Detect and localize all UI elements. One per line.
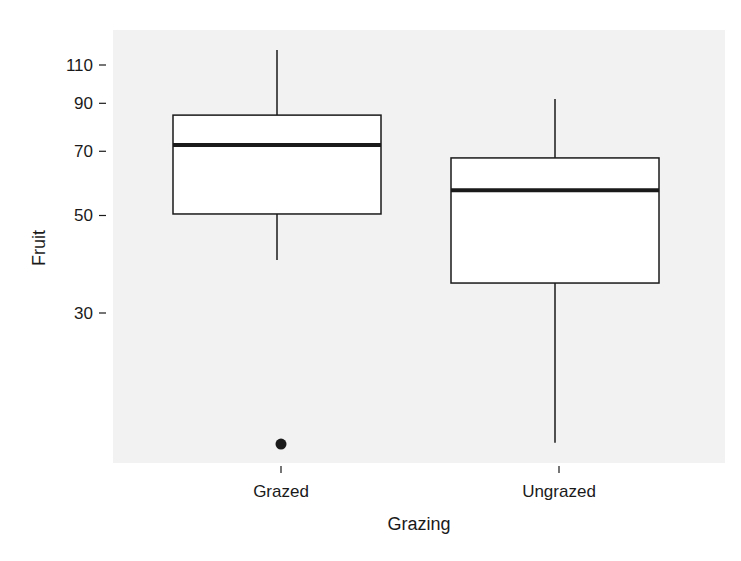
iqr-box [173,115,381,214]
y-tick-label: 110 [66,56,93,75]
x-axis: GrazedUngrazed [253,466,596,501]
boxplot-chart: 30507090110 GrazedUngrazed Fruit Grazing [0,0,741,561]
y-tick-label: 70 [74,142,93,161]
y-tick-label: 90 [74,94,93,113]
outlier-point [276,439,287,450]
x-tick-label: Ungrazed [522,482,596,501]
y-axis-title: Fruit [29,230,49,266]
x-axis-title: Grazing [387,514,450,534]
y-tick-label: 50 [74,206,93,225]
iqr-box [451,158,659,283]
x-tick-label: Grazed [253,482,309,501]
y-axis: 30507090110 [66,56,106,323]
y-tick-label: 30 [74,304,93,323]
